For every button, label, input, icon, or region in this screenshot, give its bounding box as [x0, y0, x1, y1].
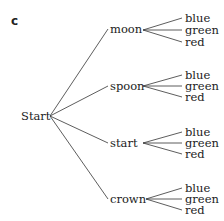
root-edges [50, 29, 108, 199]
branch-label: moon [110, 22, 143, 36]
leaf-label: red [185, 90, 205, 104]
root-label: Start [21, 109, 51, 123]
branch-label: crown [110, 192, 147, 206]
leaf-label: red [185, 35, 205, 49]
branch-moon: moon blue green red [110, 11, 219, 49]
leaf-label: red [185, 147, 205, 161]
tree-diagram: c Start moon blue green red spoon blue g… [0, 0, 224, 221]
branch-label: start [110, 136, 138, 150]
tree-svg: c Start moon blue green red spoon blue g… [0, 0, 224, 221]
leaf-label: red [185, 203, 205, 217]
branch-label: spoon [110, 79, 145, 93]
panel-label: c [11, 14, 18, 28]
branch-start: start blue green red [110, 125, 219, 161]
branch-crown: crown blue green red [110, 181, 219, 217]
branch-spoon: spoon blue green red [110, 68, 219, 104]
